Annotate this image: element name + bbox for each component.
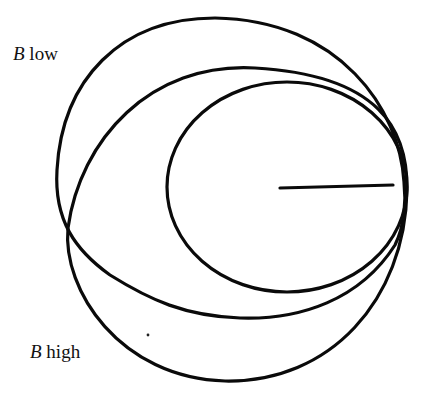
- b-high-label: B high: [30, 342, 80, 361]
- b-high-variable: B: [30, 341, 42, 362]
- b-low-text: low: [29, 43, 58, 64]
- radius-line: [280, 185, 393, 188]
- b-low-variable: B: [13, 43, 25, 64]
- stray-dot: [147, 334, 150, 337]
- b-high-text: high: [46, 341, 80, 362]
- b-low-label: B low: [13, 44, 58, 63]
- b-high-orbit-curve: [68, 68, 407, 381]
